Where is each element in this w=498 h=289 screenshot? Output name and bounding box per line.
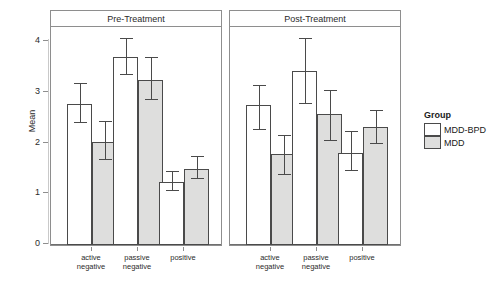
error-bar-cap-lower [166,190,179,191]
x-tick-mark [183,247,184,251]
error-bar-cap-upper [145,57,158,58]
y-tick-mark-3 [43,91,48,92]
error-bar-line [172,172,173,191]
error-bar-cap-lower [99,159,112,160]
error-bar-line [351,132,352,171]
x-tick-label-positive: positive [332,253,392,262]
legend-swatch-mdd [424,136,441,149]
error-bar-cap-lower [370,143,383,144]
error-bar-cap-lower [345,170,358,171]
panel-post-treatment: Post-Treatment [229,10,401,246]
bar-mdd-bpd-active-negative [67,104,92,245]
y-tick-mark-0 [43,243,48,244]
x-tick-mark [316,247,317,251]
error-bar-line [305,39,306,103]
error-bar-line [80,84,81,123]
x-tick-mark [91,247,92,251]
panel-title-pre-treatment: Pre-Treatment [51,11,221,27]
error-bar-line [151,58,152,100]
error-bar-line [126,39,127,74]
error-bar-cap-lower [191,178,204,179]
error-bar-cap-lower [145,99,158,100]
bar-mdd-positive [363,127,388,245]
legend-item-mdd-bpd: MDD-BPD [424,123,496,136]
error-bar-cap-lower [278,174,291,175]
panel-title-post-treatment: Post-Treatment [230,11,400,27]
y-tick-mark-1 [43,192,48,193]
x-tick-label-line: positive [153,253,213,262]
x-tick-mark [137,247,138,251]
error-bar-cap-lower [324,140,337,141]
chart-legend: Group MDD-BPD MDD [424,110,496,149]
error-bar-cap-upper [120,38,133,39]
bar-mdd-bpd-passive-negative [113,57,138,245]
bar-chart: Mean 4 3 2 1 0 Pre-Treatment Post-Treatm… [0,0,498,289]
x-tick-label-line: negative [286,262,346,271]
error-bar-cap-upper [370,110,383,111]
error-bar-line [197,157,198,179]
error-bar-cap-upper [324,90,337,91]
error-bar-cap-upper [99,121,112,122]
x-tick-label-line: positive [332,253,392,262]
error-bar-cap-upper [191,156,204,157]
y-tick-label-4: 4 [14,36,40,45]
error-bar-line [330,91,331,141]
error-bar-cap-upper [299,38,312,39]
legend-label-mdd: MDD [444,138,465,148]
error-bar-cap-lower [74,122,87,123]
panel-pre-treatment: Pre-Treatment [50,10,222,246]
error-bar-cap-upper [166,171,179,172]
bar-mdd-positive [184,169,209,246]
x-tick-label-positive: positive [153,253,213,262]
x-tick-label-line: negative [107,262,167,271]
plot-area-pre-treatment [51,27,221,246]
x-tick-mark [362,247,363,251]
error-bar-line [376,111,377,143]
error-bar-line [284,136,285,174]
error-bar-cap-upper [74,83,87,84]
error-bar-cap-upper [345,131,358,132]
y-tick-label-1: 1 [14,188,40,197]
error-bar-cap-upper [253,85,266,86]
error-bar-line [259,86,260,130]
legend-title: Group [424,110,496,120]
error-bar-cap-lower [299,103,312,104]
error-bar-cap-lower [253,129,266,130]
error-bar-cap-upper [278,135,291,136]
legend-item-mdd: MDD [424,136,496,149]
y-tick-mark-4 [43,40,48,41]
legend-label-mdd-bpd: MDD-BPD [444,125,486,135]
y-tick-mark-2 [43,142,48,143]
x-tick-mark [270,247,271,251]
y-tick-label-0: 0 [14,239,40,248]
y-tick-label-3: 3 [14,87,40,96]
error-bar-cap-lower [120,74,133,75]
plot-area-post-treatment [230,27,400,246]
legend-swatch-mdd-bpd [424,123,441,136]
y-axis-line [48,39,49,244]
error-bar-line [105,122,106,160]
y-tick-label-2: 2 [14,138,40,147]
